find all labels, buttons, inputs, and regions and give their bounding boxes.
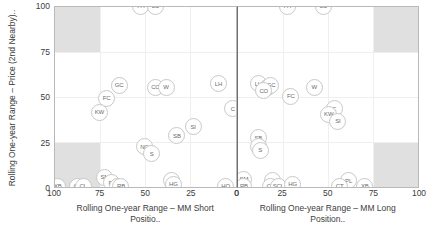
x-tick-50: 50 bbox=[323, 188, 332, 198]
data-point-label: LC bbox=[152, 6, 159, 9]
data-point[interactable]: S bbox=[252, 142, 269, 159]
data-point-label: FC bbox=[287, 93, 295, 99]
x-tick-75: 75 bbox=[95, 188, 104, 198]
data-point-label: KW bbox=[95, 109, 104, 115]
gridline-vertical bbox=[373, 7, 374, 187]
data-point[interactable]: FC bbox=[282, 88, 299, 105]
data-point[interactable]: HG bbox=[284, 176, 301, 188]
data-point-label: HG bbox=[288, 181, 297, 187]
x-axis-panel-1: 1007550250Rolling One-year Range – MM Sh… bbox=[54, 188, 237, 243]
data-point-label: PA bbox=[137, 6, 144, 9]
x-axes: 1007550250Rolling One-year Range – MM Sh… bbox=[54, 188, 419, 243]
shaded-quadrant-top-right bbox=[373, 7, 418, 52]
data-point[interactable]: S bbox=[143, 145, 160, 162]
plot-panel-1: PALCGCCCWLHFCCKWSISBNGSSMPLCORBXBQSCLKCH… bbox=[54, 6, 237, 188]
x-tick-25: 25 bbox=[277, 188, 286, 198]
data-point-label: SB bbox=[173, 133, 181, 139]
data-point[interactable]: SI bbox=[185, 118, 202, 135]
y-axis-label-text: Rolling One-year Range – Price (2nd Near… bbox=[7, 10, 18, 187]
data-point-label: GC bbox=[115, 82, 124, 88]
data-point[interactable]: GC bbox=[111, 77, 128, 94]
data-point[interactable]: KW bbox=[91, 104, 108, 121]
x-tick-25: 25 bbox=[186, 188, 195, 198]
shaded-quadrant-top-left bbox=[55, 7, 100, 52]
shaded-quadrant-bottom-right bbox=[373, 142, 418, 187]
data-point[interactable]: CL bbox=[75, 178, 92, 188]
data-point-label: SI bbox=[335, 118, 340, 124]
gridline-horizontal bbox=[55, 97, 236, 98]
data-point[interactable]: C bbox=[224, 100, 236, 117]
data-point-label: W bbox=[163, 84, 168, 90]
x-axis-label-2: Rolling One-year Range – MM LongPosition… bbox=[237, 203, 420, 225]
data-point[interactable]: HG bbox=[165, 176, 182, 188]
data-point-label: SI bbox=[191, 124, 196, 130]
data-point-label: S bbox=[150, 151, 154, 157]
data-point[interactable]: PA bbox=[279, 6, 296, 15]
data-point[interactable]: LC bbox=[147, 6, 164, 15]
data-point-label: FC bbox=[103, 95, 111, 101]
plot-panel-2: PALCLHCCGCCOWFCCKWSISBNGSSMRBKCCOSCLHGPL… bbox=[237, 6, 420, 188]
data-point[interactable]: RB bbox=[112, 178, 129, 188]
gridline-vertical bbox=[190, 7, 191, 187]
y-axis-label: Rolling One-year Range – Price (2nd Near… bbox=[0, 0, 25, 196]
data-point-label: CO bbox=[259, 88, 268, 94]
data-point-label: W bbox=[312, 84, 317, 90]
data-point-label: C bbox=[231, 106, 235, 112]
data-point-label: S bbox=[258, 147, 262, 153]
data-point[interactable]: W bbox=[306, 79, 323, 96]
data-point[interactable]: LC bbox=[315, 6, 332, 15]
data-point-label: HG bbox=[169, 181, 178, 187]
data-point[interactable]: W bbox=[158, 79, 175, 96]
x-tick-100: 100 bbox=[412, 188, 426, 198]
plot-panels: PALCGCCCWLHFCCKWSISBNGSSMPLCORBXBQSCLKCH… bbox=[54, 6, 419, 188]
data-point[interactable]: XB bbox=[356, 178, 373, 188]
data-point-label: LH bbox=[215, 81, 222, 87]
x-tick-0: 0 bbox=[234, 188, 239, 198]
data-point[interactable]: LH bbox=[210, 75, 227, 92]
x-axis-panel-2: 0255075100Rolling One-year Range – MM Lo… bbox=[237, 188, 420, 243]
x-tick-75: 75 bbox=[369, 188, 378, 198]
data-point[interactable]: SI bbox=[329, 113, 346, 130]
data-point[interactable]: HO bbox=[217, 178, 234, 188]
data-point-label: PA bbox=[284, 6, 291, 9]
x-axis-label-1: Rolling One-year Range – MM ShortPositio… bbox=[54, 203, 237, 225]
x-tick-100: 100 bbox=[47, 188, 61, 198]
x-tick-50: 50 bbox=[141, 188, 150, 198]
data-point-label: LC bbox=[320, 6, 327, 9]
